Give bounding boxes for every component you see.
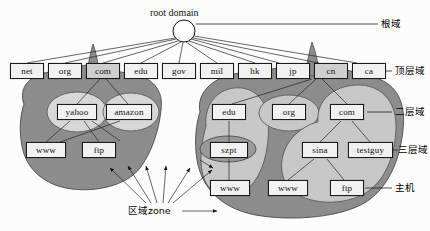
second-node-org: org	[272, 104, 306, 120]
level-label-third: 三层域	[398, 144, 428, 155]
host-node-www-szpt: www	[210, 180, 250, 196]
zone-annotation-label: 区域zone	[128, 205, 171, 216]
host-node-www-sina: www	[268, 180, 308, 196]
second-node-amazon: amazon	[106, 104, 152, 120]
tld-node-hk: hk	[238, 63, 272, 79]
dns-hierarchy-diagram: root domain 根域 顶层域 二层域 三层域 主机 区域zone net…	[0, 0, 430, 231]
tld-node-gov: gov	[162, 63, 196, 79]
tld-node-net: net	[10, 63, 44, 79]
second-node-edu: edu	[212, 104, 246, 120]
tld-node-ca: ca	[352, 63, 386, 79]
second-node-com: com	[330, 104, 364, 120]
third-node-ftp-yahoo: ftp	[82, 142, 116, 158]
tld-node-com: com	[86, 63, 120, 79]
third-node-sina: sina	[302, 142, 338, 158]
tld-node-jp: jp	[276, 63, 310, 79]
third-node-szpt: szpt	[210, 142, 248, 158]
root-to-tld-edges	[27, 36, 357, 63]
level-label-root: 根域	[381, 18, 401, 29]
level-label-second: 二层域	[395, 106, 425, 117]
third-node-testguy: testguy	[348, 142, 393, 158]
third-node-www-yahoo: www	[26, 142, 66, 158]
tld-node-mil: mil	[200, 63, 234, 79]
level-label-tld: 顶层域	[395, 65, 425, 76]
tld-node-cn: cn	[314, 63, 348, 79]
root-domain-label: root domain	[150, 7, 199, 18]
root-domain-node	[173, 20, 195, 42]
tld-node-org: org	[48, 63, 82, 79]
host-node-ftp-sina: ftp	[330, 180, 364, 196]
tld-node-edu: edu	[124, 63, 158, 79]
level-label-host: 主机	[395, 182, 415, 193]
second-node-yahoo: yahoo	[57, 104, 97, 120]
